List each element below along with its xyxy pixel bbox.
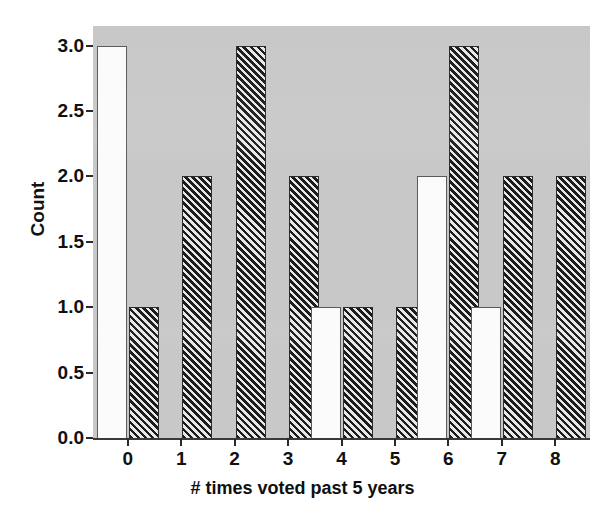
x-axis-tick-label: 4 [322,448,362,470]
x-axis-tick-mark [554,438,556,446]
y-axis-tick-mark [86,372,93,374]
y-axis-tick-label: 1.0 [36,297,84,316]
x-axis-tick-mark [234,438,236,446]
y-axis-tick-mark [86,175,93,177]
y-axis-tick-labels: 0.00.51.01.52.02.53.0 [28,0,84,520]
x-axis-tick-label: 1 [161,448,201,470]
bar-hatched-0 [129,307,159,438]
x-axis-tick-mark [180,438,182,446]
y-axis-tick-mark [86,437,93,439]
x-axis-tick-mark [394,438,396,446]
x-axis-tick-mark [127,438,129,446]
bar-hatched-8 [556,176,586,438]
bar-hatched-1 [182,176,212,438]
x-axis-tick-mark [501,438,503,446]
x-axis-tick-label: 2 [215,448,255,470]
y-axis-tick-label: 0.5 [36,363,84,382]
bar-white-7 [471,307,501,438]
x-axis-tick-label: 6 [428,448,468,470]
y-axis-tick-label: 1.5 [36,232,84,251]
x-axis-tick-mark [287,438,289,446]
y-axis-tick-mark [86,306,93,308]
x-axis-tick-label: 8 [535,448,575,470]
bar-white-0 [97,46,127,438]
bar-hatched-4 [343,307,373,438]
x-axis-tick-label: 5 [375,448,415,470]
chart-figure: Count 0.00.51.01.52.02.53.0 # times vote… [0,0,605,520]
x-axis-tick-mark [447,438,449,446]
y-axis-tick-label: 0.0 [36,428,84,447]
y-axis-tick-label: 3.0 [36,36,84,55]
plot-area [93,26,590,438]
bar-hatched-7 [503,176,533,438]
x-axis-title: # times voted past 5 years [0,478,605,499]
y-axis-tick-label: 2.0 [36,166,84,185]
x-axis-tick-label: 7 [482,448,522,470]
x-axis-tick-mark [341,438,343,446]
y-axis-tick-mark [86,45,93,47]
x-axis-tick-label: 3 [268,448,308,470]
bar-hatched-2 [236,46,266,438]
x-axis-tick-label: 0 [108,448,148,470]
bar-white-6 [417,176,447,438]
bar-white-4 [311,307,341,438]
y-axis-tick-label: 2.5 [36,101,84,120]
y-axis-tick-mark [86,241,93,243]
y-axis-tick-mark [86,110,93,112]
